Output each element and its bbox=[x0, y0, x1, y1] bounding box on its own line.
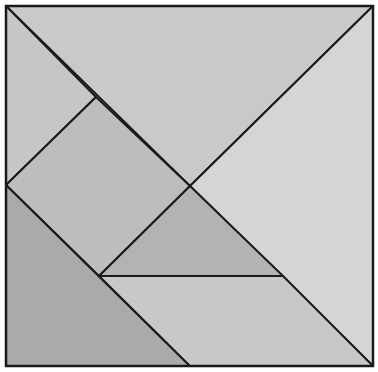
tangram-svg bbox=[0, 0, 378, 372]
tangram-diagram bbox=[0, 0, 378, 372]
tangram-pieces bbox=[6, 6, 373, 366]
